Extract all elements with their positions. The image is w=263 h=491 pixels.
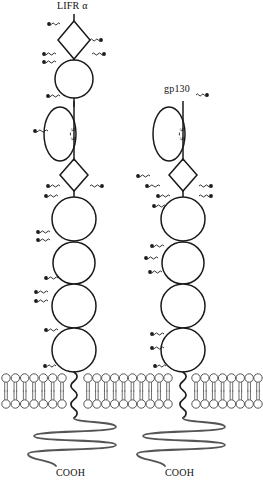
membrane-lipid-head-lower-1-0 xyxy=(84,400,92,408)
lifr-domain-diamond-1 xyxy=(58,21,90,59)
glycosylation-site-27-terminus xyxy=(150,332,154,336)
membrane-lipid-head-upper-2-4 xyxy=(227,374,235,382)
membrane-lipid-head-upper-2-1 xyxy=(201,374,209,382)
membrane-lipid-head-lower-2-4 xyxy=(227,400,235,408)
glycosylation-site-17-terminus xyxy=(205,93,209,97)
membrane-lipid-head-lower-2-2 xyxy=(210,400,218,408)
lifr-domain-circle-2 xyxy=(55,60,93,98)
diagram-canvas: SSSS xyxy=(0,0,263,491)
lifr-domain-transmembrane-helix-9 xyxy=(71,372,77,418)
lifr-domain-intracellular-tail-10 xyxy=(28,418,116,466)
lifr-domain-circle-7 xyxy=(52,284,96,328)
lifr-domain-ellipse-3 xyxy=(44,107,76,161)
glycosylation-site-26-terminus xyxy=(148,270,152,274)
label-gp130: gp130 xyxy=(164,83,190,94)
glycosylation-site-5-terminus xyxy=(46,94,50,98)
membrane-lipid-head-upper-1-1 xyxy=(93,374,101,382)
membrane-lipid-head-upper-1-3 xyxy=(110,374,118,382)
glycosylation-site-19-terminus xyxy=(136,174,140,178)
glycosylation-site-24-terminus xyxy=(150,244,154,248)
membrane-lipid-head-upper-0-1 xyxy=(11,374,19,382)
membrane-lipid-head-lower-1-9 xyxy=(164,400,172,408)
membrane-lipid-head-lower-0-6 xyxy=(58,400,66,408)
membrane-lipid-head-upper-1-6 xyxy=(137,374,145,382)
gp130-domain-ellipse-0-disulfide-s0: S xyxy=(179,128,186,132)
lifr-domain-diamond-4 xyxy=(60,159,88,191)
membrane-lipid-head-upper-0-0 xyxy=(2,374,10,382)
receptor-diagram: SSSS xyxy=(0,0,263,491)
gp130-domain-ellipse-0 xyxy=(153,107,185,161)
membrane-lipid-head-upper-2-0 xyxy=(192,374,200,382)
glycosylation-site-25-terminus xyxy=(144,256,148,260)
membrane-lipid-head-upper-2-5 xyxy=(236,374,244,382)
membrane-lipid-head-lower-1-4 xyxy=(119,400,127,408)
glycosylation-site-14-terminus xyxy=(34,299,38,303)
membrane-lipid-head-upper-0-2 xyxy=(20,374,28,382)
glycosylation-site-13-terminus xyxy=(34,290,38,294)
membrane-lipid-head-lower-1-8 xyxy=(155,400,163,408)
glycosylation-site-18-terminus xyxy=(145,184,149,188)
glycosylation-site-8-terminus xyxy=(100,184,104,188)
glycosylation-site-12-terminus xyxy=(44,276,48,280)
glycosylation-site-29-terminus xyxy=(153,364,157,368)
membrane-lipid-head-upper-2-3 xyxy=(218,374,226,382)
glycosylation-site-2-terminus xyxy=(42,52,46,56)
membrane-lipid-head-upper-0-6 xyxy=(58,374,66,382)
membrane-lipid-head-lower-0-2 xyxy=(20,400,28,408)
gp130-domain-ellipse-0-disulfide-s1: S xyxy=(179,137,186,141)
membrane-lipid-head-upper-2-7 xyxy=(254,374,262,382)
glycosylation-site-18 xyxy=(147,185,160,187)
glycosylation-site-0-terminus xyxy=(47,22,51,26)
membrane-lipid-head-lower-0-1 xyxy=(11,400,19,408)
membrane-lipid-head-upper-1-7 xyxy=(146,374,154,382)
glycosylation-site-3-terminus xyxy=(102,52,106,56)
membrane-lipid-head-upper-0-3 xyxy=(30,374,38,382)
gp130-domain-circle-4 xyxy=(161,284,205,328)
gp130-domain-circle-5 xyxy=(161,328,205,372)
membrane-lipid-head-lower-2-1 xyxy=(201,400,209,408)
glycosylation-site-21-terminus xyxy=(209,184,213,188)
membrane-lipid-head-lower-2-6 xyxy=(245,400,253,408)
membrane-lipid-head-upper-0-5 xyxy=(48,374,56,382)
lifr-domain-ellipse-3-disulfide-s1: S xyxy=(70,137,77,141)
membrane-lipid-head-upper-1-9 xyxy=(164,374,172,382)
gp130-domain-diamond-1 xyxy=(169,159,197,191)
membrane-lipid-head-upper-2-2 xyxy=(210,374,218,382)
membrane-lipid-head-lower-0-0 xyxy=(2,400,10,408)
lifr-domain-circle-6 xyxy=(53,242,95,284)
glycosylation-site-15-terminus xyxy=(44,328,48,332)
gp130-domain-circle-2 xyxy=(161,197,205,241)
lifr-domain-ellipse-3-disulfide-s0: S xyxy=(70,128,77,132)
glycosylation-site-1-terminus xyxy=(99,38,103,42)
membrane-lipid-head-lower-1-5 xyxy=(128,400,136,408)
glycosylation-site-20-terminus xyxy=(156,194,160,198)
membrane-lipid-head-upper-1-2 xyxy=(102,374,110,382)
label-cooh-gp130: COOH xyxy=(165,467,194,478)
glycosylation-site-7-terminus xyxy=(46,184,50,188)
membrane-lipid-head-lower-1-6 xyxy=(137,400,145,408)
membrane-lipid-head-upper-2-6 xyxy=(245,374,253,382)
membrane-lipid-head-lower-1-3 xyxy=(110,400,118,408)
membrane-lipid-head-lower-0-5 xyxy=(48,400,56,408)
label-lifr-alpha: LIFR α xyxy=(57,0,88,11)
glycosylation-site-4-terminus xyxy=(42,60,46,64)
glycosylation-site-28-terminus xyxy=(150,346,154,350)
lifr-domain-circle-5 xyxy=(52,197,96,241)
glycosylation-site-11-terminus xyxy=(36,238,40,242)
gp130-domain-circle-3 xyxy=(162,242,204,284)
membrane-lipid-head-lower-0-3 xyxy=(30,400,38,408)
membrane-lipid-head-lower-2-7 xyxy=(254,400,262,408)
glycosylation-site-6-terminus xyxy=(33,129,37,133)
membrane-lipid-head-upper-1-5 xyxy=(128,374,136,382)
membrane-lipid-head-lower-1-7 xyxy=(146,400,154,408)
membrane-lipid-head-lower-1-2 xyxy=(102,400,110,408)
membrane-lipid-head-lower-2-5 xyxy=(236,400,244,408)
membrane-lipid-head-upper-1-8 xyxy=(155,374,163,382)
glycosylation-site-9-terminus xyxy=(44,194,48,198)
gp130-domain-intracellular-tail-7 xyxy=(137,418,225,466)
membrane-lipid-head-upper-0-4 xyxy=(39,374,47,382)
membrane-lipid-head-upper-1-0 xyxy=(84,374,92,382)
glycosylation-site-10-terminus xyxy=(36,230,40,234)
membrane-lipid-head-lower-0-4 xyxy=(39,400,47,408)
lifr-domain-circle-8 xyxy=(52,328,96,372)
